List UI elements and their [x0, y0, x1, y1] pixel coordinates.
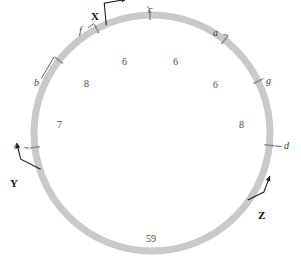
gene-label-c: c [148, 5, 152, 15]
gene-label-d: d [284, 141, 289, 151]
origin-marker-group [17, 0, 270, 200]
gene-leader-d [275, 146, 281, 147]
distance-c-f: 6 [122, 57, 127, 67]
distance-a-g: 6 [213, 80, 218, 90]
distance-d-e: 59 [146, 234, 156, 244]
distance-g-d: 8 [239, 120, 244, 130]
gene-leader-a [223, 35, 228, 36]
origin-label-X: X [91, 11, 99, 22]
distance-c-a: 6 [173, 57, 178, 67]
distance-b-e: 7 [57, 120, 62, 130]
gene-label-e: e [14, 141, 18, 151]
gene-label-g: g [266, 76, 271, 86]
gene-label-b: b [34, 78, 39, 88]
gene-label-a: a [213, 28, 218, 38]
chromosome-ring [34, 15, 270, 251]
map-canvas [0, 0, 301, 267]
chromosome-map-diagram: abcdefgXYZ66688759 [0, 0, 301, 267]
gene-tick-d [264, 145, 274, 146]
distance-f-b: 8 [84, 79, 89, 89]
origin-label-Z: Z [258, 210, 265, 221]
gene-tick-group [30, 10, 274, 148]
origin-label-Y: Y [10, 178, 18, 189]
chromosome-band [34, 15, 270, 251]
gene-label-f: f [79, 26, 82, 36]
